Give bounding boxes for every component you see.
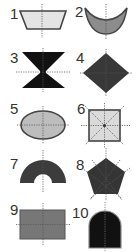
shape-5-ellipse: 5 [10,100,69,144]
shape-label-1: 1 [10,5,18,22]
shape-8-pentagon: 8 [76,148,130,200]
shape-label-4: 4 [76,49,84,66]
shape-2-crescent: 2 [75,3,127,39]
shape-6-square: 6 [77,100,130,148]
trapezoid-shape [20,11,66,29]
shape-label-10: 10 [72,204,89,221]
shapes-figure: 1 2 3 4 5 6 7 [0,0,137,252]
center-point [103,124,106,127]
hourglass-shape [22,52,65,88]
shape-9-rectangle: 9 [10,201,70,246]
shape-label-9: 9 [10,201,18,218]
shape-4-rhombus: 4 [76,49,132,96]
shape-label-8: 8 [76,156,84,173]
shape-10-arch: 10 [72,202,121,252]
shape-label-2: 2 [75,3,83,20]
shape-7-half-annulus: 7 [10,150,66,192]
shape-3-hourglass: 3 [10,48,70,92]
shape-label-6: 6 [77,100,85,117]
shape-label-5: 5 [10,100,18,117]
shape-label-3: 3 [10,49,18,66]
shape-label-7: 7 [10,155,18,172]
shape-1-trapezoid: 1 [10,4,66,38]
